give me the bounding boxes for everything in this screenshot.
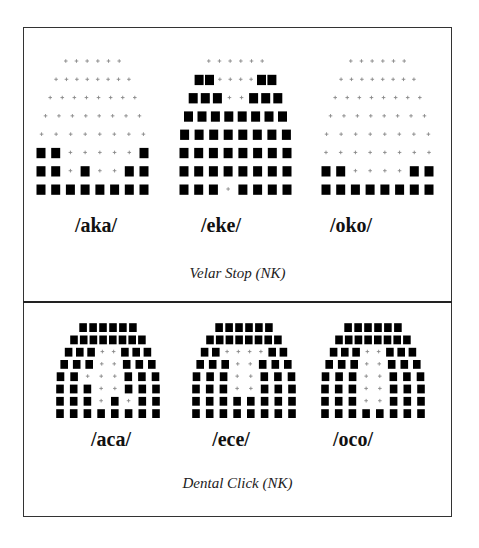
- electrode-contact: [384, 323, 392, 332]
- electrode-contact: [152, 397, 160, 406]
- electrode-no-contact: [370, 77, 374, 81]
- electrode-contact: [180, 185, 189, 195]
- electrode-contact: [261, 93, 270, 103]
- electrode-contact: [192, 397, 200, 406]
- electrode-contact: [253, 166, 262, 176]
- electrode-no-contact: [48, 96, 52, 100]
- electrode-contact: [261, 372, 269, 381]
- electrode-contact: [274, 372, 282, 381]
- electrode-contact: [352, 348, 360, 357]
- electrode-contact: [417, 372, 425, 381]
- electrode-contact: [224, 111, 233, 121]
- electrode-no-contact: [84, 114, 88, 118]
- electrode-no-contact: [354, 169, 358, 173]
- electrode-no-contact: [207, 59, 211, 63]
- electrode-no-contact: [423, 114, 427, 118]
- electrode-no-contact: [54, 132, 58, 136]
- electrode-no-contact: [427, 132, 431, 136]
- electrode-contact: [152, 372, 160, 381]
- electrode-no-contact: [398, 151, 402, 155]
- electrode-contact: [65, 348, 73, 357]
- electrode-contact: [288, 372, 296, 381]
- electrode-contact: [138, 372, 146, 381]
- electrode-no-contact: [86, 374, 90, 378]
- electrode-contact: [355, 336, 363, 345]
- electrode-no-contact: [218, 59, 222, 63]
- electrode-contact: [255, 323, 263, 332]
- electrode-contact: [125, 166, 134, 176]
- electrode-no-contact: [377, 362, 381, 366]
- electrode-contact: [125, 372, 133, 381]
- electrode-contact: [132, 348, 140, 357]
- electrode-no-contact: [381, 77, 385, 81]
- electrode-contact: [351, 185, 360, 195]
- electrode-no-contact: [69, 169, 73, 173]
- electrode-contact: [180, 130, 189, 140]
- electrode-no-contact: [370, 59, 374, 63]
- electrode-no-contact: [218, 77, 222, 81]
- electrode-no-contact: [329, 114, 333, 118]
- electrode-no-contact: [64, 59, 68, 63]
- electrode-contact: [349, 397, 357, 406]
- electrode-no-contact: [96, 59, 100, 63]
- electrode-contact: [109, 323, 117, 332]
- electrode-contact: [261, 385, 269, 394]
- electrode-no-contact: [96, 77, 100, 81]
- electrode-no-contact: [365, 362, 369, 366]
- electrode-contact: [274, 336, 282, 345]
- electrode-contact: [139, 397, 147, 406]
- electrode-no-contact: [99, 374, 103, 378]
- electrode-contact: [322, 185, 331, 195]
- electrode-contact: [111, 397, 119, 406]
- electrode-contact: [259, 360, 267, 369]
- electrode-contact: [51, 185, 60, 195]
- electrode-contact: [283, 185, 292, 195]
- electrode-contact: [350, 360, 358, 369]
- electrode-contact: [37, 185, 46, 195]
- electrode-no-contact: [98, 132, 102, 136]
- electrode-contact: [238, 166, 247, 176]
- electrode-contact: [37, 166, 46, 176]
- electrode-no-contact: [83, 132, 87, 136]
- electrode-contact: [261, 409, 269, 418]
- electrode-contact: [390, 372, 398, 381]
- electrode-contact: [225, 323, 233, 332]
- electrode-no-contact: [364, 399, 368, 403]
- electrode-contact: [344, 323, 352, 332]
- electrode-contact: [257, 75, 266, 85]
- electrode-contact: [209, 360, 217, 369]
- electrode-contact: [125, 185, 134, 195]
- electrode-no-contact: [113, 151, 117, 155]
- electrode-contact: [56, 409, 64, 418]
- electrode-contact: [325, 360, 333, 369]
- electrode-no-contact: [85, 96, 89, 100]
- palatogram-aca: [54, 321, 162, 419]
- electrode-no-contact: [383, 151, 387, 155]
- electrode-no-contact: [127, 151, 131, 155]
- electrode-contact: [247, 409, 255, 418]
- electrode-contact: [409, 348, 417, 357]
- electrode-contact: [267, 130, 276, 140]
- electrode-contact: [384, 336, 392, 345]
- electrode-contact: [251, 111, 260, 121]
- electrode-contact: [403, 336, 411, 345]
- electrode-contact: [410, 185, 419, 195]
- electrode-contact: [70, 409, 78, 418]
- electrode-no-contact: [73, 96, 77, 100]
- electrode-no-contact: [356, 114, 360, 118]
- electrode-contact: [321, 397, 329, 406]
- electrode-contact: [362, 409, 370, 418]
- electrode-contact: [349, 409, 357, 418]
- palatogram-oco: [319, 321, 427, 419]
- electrode-no-contact: [249, 374, 253, 378]
- electrode-no-contact: [113, 387, 117, 391]
- electrode-contact: [267, 75, 276, 85]
- electrode-contact: [220, 409, 228, 418]
- electrode-contact: [87, 348, 95, 357]
- electrode-no-contact: [250, 59, 254, 63]
- electrode-contact: [401, 360, 409, 369]
- electrode-contact: [278, 111, 287, 121]
- electrode-no-contact: [383, 132, 387, 136]
- electrode-no-contact: [228, 59, 232, 63]
- electrode-contact: [253, 148, 262, 158]
